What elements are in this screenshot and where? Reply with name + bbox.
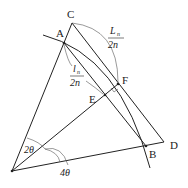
label-C: C bbox=[67, 8, 74, 20]
fraction-Ln-over-2n: L n 2n bbox=[108, 25, 124, 50]
angle-arc-4theta-part bbox=[45, 149, 60, 162]
ln-numerator: l bbox=[73, 63, 76, 74]
label-D: D bbox=[170, 139, 178, 151]
Ln-numerator: L bbox=[109, 25, 116, 36]
line-OD bbox=[12, 142, 164, 171]
ln-subscript: n bbox=[77, 69, 80, 75]
fraction-ln-over-2n: l n 2n bbox=[70, 63, 84, 88]
label-F: F bbox=[122, 74, 128, 86]
angle-label-2theta: 2θ bbox=[24, 144, 34, 155]
ln-denominator: 2n bbox=[70, 77, 80, 88]
line-OC bbox=[12, 23, 72, 171]
label-E: E bbox=[89, 93, 96, 105]
line-CD bbox=[72, 23, 164, 142]
point-B bbox=[145, 145, 148, 148]
point-A bbox=[63, 42, 66, 45]
point-O bbox=[11, 170, 14, 173]
Ln-denominator: 2n bbox=[108, 39, 118, 50]
label-A: A bbox=[56, 27, 64, 39]
label-B: B bbox=[149, 148, 156, 160]
angle-label-4theta: 4θ bbox=[60, 167, 70, 178]
geometry-diagram: C A F E B D L n 2n l n 2n 2θ 4θ bbox=[0, 0, 188, 188]
point-E bbox=[104, 94, 107, 97]
Ln-subscript: n bbox=[117, 31, 120, 37]
point-F bbox=[117, 83, 120, 86]
